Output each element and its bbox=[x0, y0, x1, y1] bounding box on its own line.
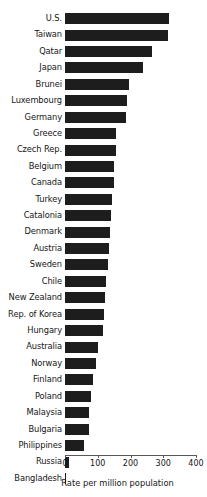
category-label: Qatar bbox=[0, 44, 62, 60]
bar bbox=[65, 177, 114, 188]
bar bbox=[65, 161, 114, 172]
category-label: Luxembourg bbox=[0, 93, 62, 109]
bar-row: Chile bbox=[0, 274, 207, 290]
bar bbox=[65, 424, 89, 435]
bar bbox=[65, 325, 103, 336]
bar bbox=[65, 292, 105, 303]
category-label: Norway bbox=[0, 356, 62, 372]
bar-row: Turkey bbox=[0, 192, 207, 208]
category-label: U.S. bbox=[0, 11, 62, 27]
bar bbox=[65, 210, 111, 221]
bar bbox=[65, 407, 89, 418]
category-label: Denmark bbox=[0, 224, 62, 240]
category-label: Finland bbox=[0, 372, 62, 388]
bar-row: Germany bbox=[0, 110, 207, 126]
bar-row: U.S. bbox=[0, 11, 207, 27]
bar bbox=[65, 309, 104, 320]
bar bbox=[65, 227, 110, 238]
bar bbox=[65, 276, 106, 287]
x-axis-tick bbox=[163, 455, 164, 458]
bar-row: Malaysia bbox=[0, 405, 207, 421]
category-label: Philippines bbox=[0, 438, 62, 454]
category-label: Japan bbox=[0, 60, 62, 76]
category-label: Brunei bbox=[0, 77, 62, 93]
bar-row: Taiwan bbox=[0, 27, 207, 43]
category-label: Australia bbox=[0, 339, 62, 355]
x-axis-tick bbox=[131, 455, 132, 458]
bar-row: Czech Rep. bbox=[0, 142, 207, 158]
bar bbox=[65, 46, 152, 57]
x-axis-tick bbox=[196, 455, 197, 458]
bar bbox=[65, 194, 112, 205]
x-axis-tick-label: 400 bbox=[181, 459, 207, 468]
bar-row: Hungary bbox=[0, 323, 207, 339]
category-label: Bulgaria bbox=[0, 422, 62, 438]
category-label: Taiwan bbox=[0, 27, 62, 43]
bar-row: Japan bbox=[0, 60, 207, 76]
category-label: New Zealand bbox=[0, 290, 62, 306]
bar bbox=[65, 128, 116, 139]
bar bbox=[65, 440, 84, 451]
bar bbox=[65, 342, 98, 353]
bar-row: New Zealand bbox=[0, 290, 207, 306]
bar-row: Qatar bbox=[0, 44, 207, 60]
bar bbox=[65, 62, 143, 73]
category-label: Germany bbox=[0, 110, 62, 126]
x-axis-tick-label: 300 bbox=[148, 459, 178, 468]
bar bbox=[65, 358, 96, 369]
bar-chart: U.S.TaiwanQatarJapanBruneiLuxembourgGerm… bbox=[0, 0, 207, 497]
category-label: Sweden bbox=[0, 257, 62, 273]
bar-row: Brunei bbox=[0, 77, 207, 93]
bar-row: Finland bbox=[0, 372, 207, 388]
bar bbox=[65, 30, 168, 41]
bar bbox=[65, 112, 126, 123]
x-axis-title: Rate per million population bbox=[0, 478, 207, 488]
bar-row: Austria bbox=[0, 241, 207, 257]
x-axis-tick-label: 0 bbox=[50, 459, 80, 468]
bar bbox=[65, 145, 116, 156]
category-label: Turkey bbox=[0, 192, 62, 208]
bar-row: Denmark bbox=[0, 224, 207, 240]
bar bbox=[65, 79, 129, 90]
category-label: Greece bbox=[0, 126, 62, 142]
category-label: Canada bbox=[0, 175, 62, 191]
bar bbox=[65, 95, 127, 106]
x-axis-tick bbox=[65, 455, 66, 458]
category-label: Hungary bbox=[0, 323, 62, 339]
bar bbox=[65, 374, 93, 385]
bar-row: Australia bbox=[0, 339, 207, 355]
bar-row: Luxembourg bbox=[0, 93, 207, 109]
category-label: Malaysia bbox=[0, 405, 62, 421]
bar-row: Bulgaria bbox=[0, 422, 207, 438]
bar-row: Catalonia bbox=[0, 208, 207, 224]
bar-row: Rep. of Korea bbox=[0, 307, 207, 323]
category-label: Poland bbox=[0, 389, 62, 405]
x-axis-tick-label: 100 bbox=[83, 459, 113, 468]
x-axis-tick-label: 200 bbox=[116, 459, 146, 468]
bar bbox=[65, 243, 109, 254]
bar-row: Philippines bbox=[0, 438, 207, 454]
x-axis-tick bbox=[98, 455, 99, 458]
bar-row: Poland bbox=[0, 389, 207, 405]
category-label: Austria bbox=[0, 241, 62, 257]
category-label: Belgium bbox=[0, 159, 62, 175]
category-label: Chile bbox=[0, 274, 62, 290]
category-label: Catalonia bbox=[0, 208, 62, 224]
bar-row: Belgium bbox=[0, 159, 207, 175]
bar-row: Norway bbox=[0, 356, 207, 372]
bar bbox=[65, 259, 108, 270]
bar-row: Canada bbox=[0, 175, 207, 191]
bar-row: Greece bbox=[0, 126, 207, 142]
bar bbox=[65, 391, 91, 402]
category-label: Czech Rep. bbox=[0, 142, 62, 158]
category-label: Rep. of Korea bbox=[0, 307, 62, 323]
bar-row: Sweden bbox=[0, 257, 207, 273]
bar bbox=[65, 13, 169, 24]
